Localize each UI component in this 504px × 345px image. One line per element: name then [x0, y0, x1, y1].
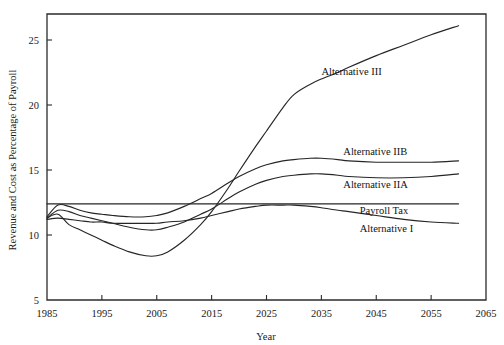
- x-tick-label: 2015: [201, 308, 222, 319]
- y-tick-label: 5: [34, 295, 39, 306]
- line-chart: 5101520251985199520052015202520352045205…: [0, 0, 504, 345]
- series-line-0: [47, 26, 459, 257]
- series-label-1: Alternative IIB: [343, 146, 407, 157]
- x-tick-label: 2045: [366, 308, 387, 319]
- chart-series: [47, 26, 459, 257]
- chart-axes: [47, 14, 486, 300]
- y-tick-label: 20: [29, 100, 40, 111]
- series-label-4: Alternative I: [360, 223, 414, 234]
- series-label-2: Alternative IIA: [343, 179, 408, 190]
- chart-series-labels: Alternative IIIAlternative IIBAlternativ…: [321, 66, 413, 234]
- series-label-0: Alternative III: [321, 66, 382, 77]
- x-tick-label: 1995: [91, 308, 112, 319]
- x-tick-label: 2005: [146, 308, 167, 319]
- y-tick-label: 25: [29, 35, 40, 46]
- x-tick-label: 2065: [476, 308, 497, 319]
- y-tick-label: 15: [29, 165, 40, 176]
- plot-frame: [47, 14, 486, 300]
- y-tick-label: 10: [29, 230, 40, 241]
- chart-container: 5101520251985199520052015202520352045205…: [0, 0, 504, 345]
- x-tick-label: 2025: [256, 308, 277, 319]
- x-tick-label: 2055: [421, 308, 442, 319]
- x-axis-title: Year: [256, 331, 276, 342]
- x-tick-label: 1985: [37, 308, 58, 319]
- series-label-3: Payroll Tax: [360, 205, 409, 216]
- x-tick-label: 2035: [311, 308, 332, 319]
- y-axis-title: Revenue and Cost as Percentage of Payrol…: [7, 70, 18, 251]
